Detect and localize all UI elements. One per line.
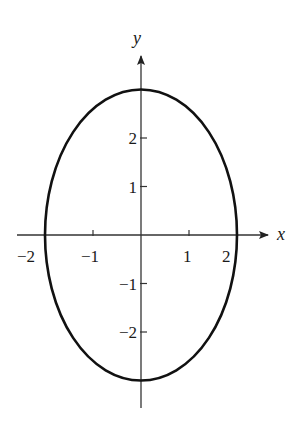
y-axis-label: y [131, 28, 141, 48]
y-tick-label: −1 [119, 275, 137, 294]
x-tick-label: 2 [222, 247, 231, 266]
y-tick-label: 2 [129, 129, 138, 148]
x-tick-label: 1 [183, 247, 192, 266]
ellipse-plot: −2−11221−1−2 x y [0, 0, 298, 435]
y-tick-label: 1 [129, 178, 138, 197]
x-axis-label: x [276, 224, 285, 244]
y-tick-label: −2 [119, 323, 137, 342]
axes [17, 56, 268, 408]
x-tick-label: −1 [81, 247, 99, 266]
x-tick-label: −2 [17, 247, 35, 266]
